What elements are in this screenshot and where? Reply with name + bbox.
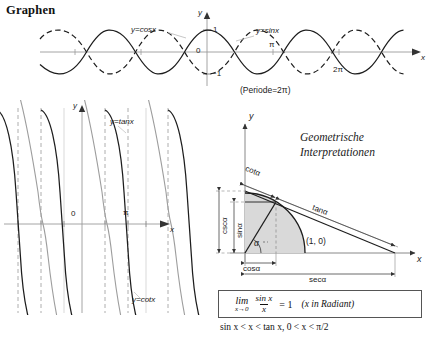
tancot-tick-zero: 0 [71,210,75,218]
csc-label: cscα [221,217,229,234]
sincos-tick-one: 1 [213,26,217,34]
cos-label: cosα [243,265,260,273]
geometry-x-axis-label: x [417,255,422,264]
cot-curve [19,100,193,315]
sin-curve-label: y=sinx [256,27,279,35]
cot-curve-label: y=cotx [132,296,155,304]
tancot-chart: y=tanx y=cotx y x 0 π [0,100,215,315]
sin-label: sinα [236,223,244,238]
tancot-tick-pi: π [123,209,129,217]
formula-equals: = 1 [279,299,292,310]
sin-label-leader [236,36,254,41]
sincos-x-axis-label: x [421,54,425,62]
limit-operator: lim x→0 [235,296,249,313]
limit-formula: lim x→0 sin x x = 1 (x in Radiant) [219,291,421,317]
sincos-svg [0,10,431,98]
geometry-heading-line2: Interpretationen [300,145,375,160]
figure-page: Graphen [0,0,431,343]
limit-formula-box: lim x→0 sin x x = 1 (x in Radiant) [218,290,422,318]
alpha-label: α [254,239,259,248]
sincos-y-axis-label: y [198,9,202,17]
fraction-denominator: x [260,304,268,314]
lim-text: lim [235,296,248,306]
tancot-y-axis-label: y [73,102,77,110]
tan-label-leader [118,126,126,133]
tancot-x-axis-label: x [170,226,174,234]
geometry-heading: Geometrische Interpretationen [300,130,375,160]
sincos-period-note: (Periode=2π) [240,86,291,95]
fraction-numerator: sin x [254,294,275,303]
sec-label: secα [309,276,326,284]
unit-point-label: (1, 0) [306,237,326,246]
sincos-tick-minus-one: −1 [212,70,221,78]
tancot-svg [0,100,215,315]
formula-radiant-note: (x in Radiant) [302,299,355,309]
sincos-tick-pi: π [269,41,275,49]
cos-curve-label: y=cosx [131,26,156,34]
lim-subscript: x→0 [235,306,249,313]
sincos-axes [40,12,421,86]
sincos-chart: y=cosx y=sinx y x 1 0 −1 π 2π (Periode=2… [0,10,431,98]
sincos-tick-zero: 0 [196,47,200,55]
sinx-over-x-fraction: sin x x [254,294,275,314]
tan-curve-label: y=tanx [110,118,134,126]
geometry-y-axis-label: y [249,112,254,121]
inequality-text: sin x < x < tan x, 0 < x < π/2 [220,322,329,332]
sincos-tick-two-pi: 2π [333,66,343,74]
geometry-heading-line1: Geometrische [300,130,375,145]
